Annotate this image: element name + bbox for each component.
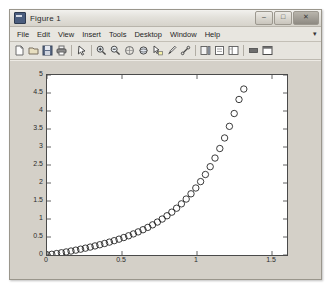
- separator-4: [241, 44, 246, 57]
- dock-figure-icon[interactable]: [261, 44, 274, 57]
- x-tick-label: 0: [40, 256, 52, 263]
- data-point-marker: [183, 196, 189, 202]
- toolbar: [10, 42, 321, 60]
- figure-canvas[interactable]: — —— — — —— ——— — —— — ——— ——— — ——— — —…: [10, 60, 321, 279]
- separator-3: [193, 44, 198, 57]
- close-button[interactable]: ✕: [293, 11, 319, 25]
- menu-bar: File Edit View Insert Tools Desktop Wind…: [10, 27, 321, 42]
- data-point-marker: [241, 86, 247, 92]
- brush-icon[interactable]: [165, 44, 178, 57]
- y-tick-label: 1: [29, 214, 43, 221]
- print-figure-icon[interactable]: [55, 44, 68, 57]
- show-plot-tools-icon[interactable]: [227, 44, 240, 57]
- zoom-out-icon[interactable]: [109, 44, 122, 57]
- minimize-button[interactable]: –: [255, 11, 273, 25]
- data-point-marker: [231, 110, 237, 116]
- data-point-marker: [159, 216, 165, 222]
- data-point-marker: [197, 178, 203, 184]
- y-tick-label: 2.5: [29, 160, 43, 167]
- x-tick-label: 1.5: [265, 256, 277, 263]
- new-figure-icon[interactable]: [13, 44, 26, 57]
- matlab-figure-icon: [14, 12, 26, 24]
- y-tick-label: 1.5: [29, 196, 43, 203]
- data-point-marker: [193, 185, 199, 191]
- menu-item-edit[interactable]: Edit: [33, 30, 54, 39]
- axes-box[interactable]: [46, 74, 288, 256]
- open-file-icon[interactable]: [27, 44, 40, 57]
- rotate-3d-icon[interactable]: [137, 44, 150, 57]
- data-point-marker: [202, 171, 208, 177]
- menu-item-help[interactable]: Help: [201, 30, 224, 39]
- y-tick-label: 3: [29, 142, 43, 149]
- zoom-in-icon[interactable]: [95, 44, 108, 57]
- save-figure-icon[interactable]: [41, 44, 54, 57]
- y-tick-label: 4.5: [29, 88, 43, 95]
- menu-item-view[interactable]: View: [54, 30, 78, 39]
- y-tick-label: 2: [29, 178, 43, 185]
- pan-icon[interactable]: [123, 44, 136, 57]
- data-point-marker: [221, 135, 227, 141]
- insert-colorbar-icon[interactable]: [199, 44, 212, 57]
- hide-plot-tools-icon[interactable]: [247, 44, 260, 57]
- menu-item-window[interactable]: Window: [166, 30, 201, 39]
- figure-window: Figure 1 – □ ✕ File Edit View Insert Too…: [9, 9, 322, 280]
- y-tick-label: 3.5: [29, 124, 43, 131]
- x-tick-label: 0.5: [115, 256, 127, 263]
- window-title: Figure 1: [30, 14, 61, 23]
- data-point-marker: [154, 219, 160, 225]
- title-bar: Figure 1 – □ ✕: [10, 10, 321, 27]
- link-plot-icon[interactable]: [179, 44, 192, 57]
- data-point-marker: [207, 163, 213, 169]
- menu-item-file[interactable]: File: [13, 30, 33, 39]
- y-tick-label: 0.5: [29, 232, 43, 239]
- menu-item-insert[interactable]: Insert: [78, 30, 105, 39]
- data-point-marker: [188, 191, 194, 197]
- y-tick-label: 5: [29, 70, 43, 77]
- data-point-marker: [226, 123, 232, 129]
- plot-svg: [47, 75, 287, 255]
- menu-item-tools[interactable]: Tools: [105, 30, 131, 39]
- data-point-marker: [217, 145, 223, 151]
- y-tick-label: 0: [29, 250, 43, 257]
- window-buttons: – □ ✕: [255, 11, 319, 25]
- menu-item-desktop[interactable]: Desktop: [130, 30, 166, 39]
- insert-legend-icon[interactable]: [213, 44, 226, 57]
- data-point-marker: [236, 96, 242, 102]
- y-tick-label: 4: [29, 106, 43, 113]
- data-point-marker: [212, 155, 218, 161]
- menu-overflow-chevron-down-icon[interactable]: ▾: [313, 30, 317, 38]
- data-cursor-icon[interactable]: [151, 44, 164, 57]
- edit-plot-arrow-icon[interactable]: [75, 44, 88, 57]
- separator-2: [89, 44, 94, 57]
- x-tick-label: 1: [190, 256, 202, 263]
- maximize-button[interactable]: □: [274, 11, 292, 25]
- separator-1: [69, 44, 74, 57]
